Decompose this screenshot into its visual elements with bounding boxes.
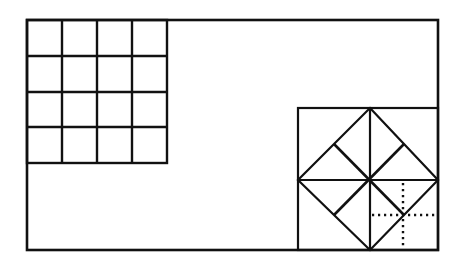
outer-rectangle: [27, 20, 438, 250]
grid-4x4: [27, 20, 167, 163]
diagram-canvas: [0, 0, 465, 267]
